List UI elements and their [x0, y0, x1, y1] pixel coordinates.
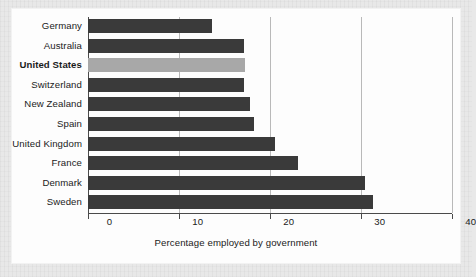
category-label-switzerland: Switzerland	[31, 78, 82, 92]
bar-row	[88, 176, 365, 190]
tick-label-40: 40	[422, 216, 476, 227]
tick-label-20: 20	[240, 216, 294, 227]
bar-australia	[88, 39, 244, 53]
bar-sweden	[88, 195, 373, 209]
bar-row	[88, 137, 275, 151]
category-label-denmark: Denmark	[42, 176, 82, 190]
bar-row	[88, 39, 244, 53]
category-label-united-states: United States	[19, 58, 82, 72]
bar-united-states	[88, 58, 245, 72]
category-label-australia: Australia	[44, 39, 82, 53]
chart-plot-area: GermanyAustraliaUnited StatesSwitzerland…	[12, 9, 460, 263]
bar-france	[88, 156, 298, 170]
bar-row	[88, 97, 250, 111]
chart-x-axis-title: Percentage employed by government	[12, 237, 460, 248]
tick-label-10: 10	[149, 216, 203, 227]
category-label-united-kingdom: United Kingdom	[12, 137, 82, 151]
category-label-france: France	[52, 156, 82, 170]
bar-spain	[88, 117, 254, 131]
bar-new-zealand	[88, 97, 250, 111]
chart-figure: GermanyAustraliaUnited StatesSwitzerland…	[12, 9, 460, 263]
bar-row	[88, 19, 212, 33]
category-label-germany: Germany	[42, 19, 82, 33]
bar-germany	[88, 19, 212, 33]
bar-row	[88, 117, 254, 131]
category-label-sweden: Sweden	[47, 195, 82, 209]
tick-label-0: 0	[58, 216, 112, 227]
bar-row	[88, 78, 244, 92]
gridline-40	[452, 17, 453, 213]
tick-label-30: 30	[331, 216, 385, 227]
bar-row	[88, 195, 373, 209]
category-label-new-zealand: New Zealand	[24, 97, 82, 111]
bar-united-kingdom	[88, 137, 275, 151]
bar-row	[88, 156, 298, 170]
bar-switzerland	[88, 78, 244, 92]
category-label-spain: Spain	[57, 117, 82, 131]
bar-row	[88, 58, 245, 72]
bar-denmark	[88, 176, 365, 190]
